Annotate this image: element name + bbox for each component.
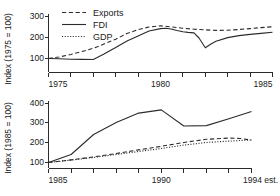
series-line-exports-top [49,26,273,59]
legend-label-fdi: FDI [93,20,108,30]
x-tick-label-1975-top: 1975 [49,79,68,89]
legend-label-exports: Exports [93,8,124,18]
x-tick-label-1985-bottom: 1985 [49,175,68,185]
figure-container: Index (1975 = 100) 300 200 100 [0,0,280,196]
y-tick-label-300-bottom: 300 [30,117,44,127]
x-tick-label-1990-bottom: 1990 [152,175,171,185]
y-tick-label-100-bottom: 100 [30,157,44,167]
legend-top: Exports FDI GDP [62,8,124,42]
series-line-fdi-top [49,28,273,59]
chart-panel-top: Index (1975 = 100) 300 200 100 [0,0,280,98]
y-axis-label-top: Index (1975 = 100) [3,13,13,85]
chart-panel-bottom: Index (1985 = 100) 400 300 200 100 [0,98,280,196]
series-line-fdi-bottom [49,110,252,163]
chart-svg-bottom: Index (1985 = 100) 400 300 200 100 [0,98,280,196]
chart-svg-top: Index (1975 = 100) 300 200 100 [0,0,280,98]
x-tick-label-1994-bottom: 1994 est. [243,175,278,185]
x-tick-label-1985-top: 1985 [254,79,273,89]
y-tick-label-100-top: 100 [30,53,44,63]
x-tick-label-1980-top: 1980 [151,79,170,89]
y-tick-label-200-bottom: 200 [30,137,44,147]
y-tick-label-200-top: 200 [30,32,44,42]
y-axis-label-bottom: Index (1985 = 100) [3,102,13,174]
series-line-gdp-bottom [49,140,252,163]
y-tick-label-300-top: 300 [30,11,44,21]
y-tick-label-400-bottom: 400 [30,98,44,108]
legend-label-gdp: GDP [93,32,113,42]
